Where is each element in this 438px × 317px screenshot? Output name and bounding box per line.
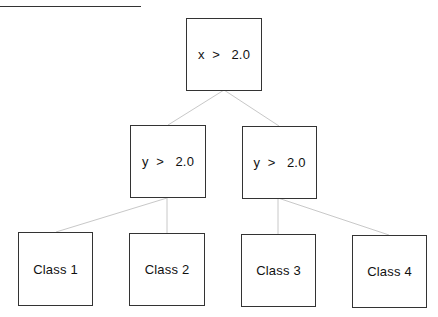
leaf-class-2-label: Class 2 bbox=[145, 262, 190, 277]
edge-right-leaf4 bbox=[278, 198, 389, 235]
leaf-class-4-label: Class 4 bbox=[367, 264, 412, 279]
edge-left-leaf1 bbox=[56, 198, 167, 232]
right-split-node: y > 2.0 bbox=[242, 126, 317, 199]
leaf-class-1: Class 1 bbox=[18, 232, 93, 306]
leaf-class-2: Class 2 bbox=[129, 233, 205, 306]
left-split-node: y > 2.0 bbox=[130, 125, 206, 198]
edge-root-left bbox=[168, 90, 224, 125]
right-split-label: y > 2.0 bbox=[253, 155, 305, 170]
root-node: x > 2.0 bbox=[186, 18, 262, 91]
leaf-class-3-label: Class 3 bbox=[256, 263, 301, 278]
left-split-label: y > 2.0 bbox=[142, 154, 194, 169]
leaf-class-1-label: Class 1 bbox=[33, 262, 78, 277]
leaf-class-3: Class 3 bbox=[241, 234, 316, 307]
leaf-class-4: Class 4 bbox=[352, 235, 427, 308]
root-node-label: x > 2.0 bbox=[198, 47, 250, 62]
edge-root-right bbox=[224, 90, 279, 126]
